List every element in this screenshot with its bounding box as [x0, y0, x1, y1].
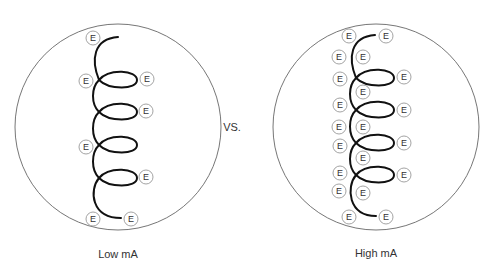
electron-marker: E — [332, 184, 346, 198]
svg-text:E: E — [346, 212, 352, 222]
electron-marker: E — [332, 50, 346, 64]
electron-marker: E — [140, 72, 154, 86]
electron-marker: E — [356, 151, 370, 165]
svg-text:E: E — [90, 33, 96, 43]
svg-text:E: E — [336, 122, 342, 132]
svg-text:E: E — [383, 31, 389, 41]
high-ma-filament-panel: EEEEEEEEEEEEEEEEEEEE — [273, 24, 479, 230]
svg-text:E: E — [337, 168, 343, 178]
electron-marker: E — [139, 104, 153, 118]
svg-text:E: E — [360, 122, 366, 132]
svg-text:E: E — [336, 186, 342, 196]
electron-marker: E — [333, 72, 347, 86]
electron-marker: E — [79, 140, 93, 154]
electron-marker: E — [333, 166, 347, 180]
electron-marker: E — [79, 74, 93, 88]
electron-marker: E — [356, 85, 370, 99]
electron-marker: E — [397, 103, 411, 117]
vs-label: VS. — [223, 121, 241, 133]
svg-text:E: E — [337, 141, 343, 151]
electron-marker: E — [333, 98, 347, 112]
electron-marker: E — [332, 120, 346, 134]
svg-text:E: E — [401, 105, 407, 115]
svg-text:E: E — [360, 87, 366, 97]
low-ma-filament-panel: EEEEEEEE — [15, 24, 221, 230]
svg-text:E: E — [128, 214, 134, 224]
focal-boundary-circle — [15, 24, 221, 230]
svg-text:E: E — [83, 142, 89, 152]
svg-text:E: E — [401, 170, 407, 180]
low-ma-label: Low mA — [98, 248, 138, 260]
electron-marker: E — [342, 210, 356, 224]
electron-marker: E — [356, 186, 370, 200]
electron-marker: E — [139, 170, 153, 184]
electron-marker: E — [86, 212, 100, 226]
electron-marker: E — [356, 50, 370, 64]
svg-text:E: E — [90, 214, 96, 224]
filament-coil — [93, 37, 137, 218]
svg-text:E: E — [337, 74, 343, 84]
electron-marker: E — [342, 29, 356, 43]
electron-marker: E — [124, 212, 138, 226]
svg-text:E: E — [144, 74, 150, 84]
electron-marker: E — [333, 139, 347, 153]
svg-text:E: E — [337, 100, 343, 110]
svg-text:E: E — [383, 212, 389, 222]
electron-marker: E — [356, 120, 370, 134]
svg-text:E: E — [336, 52, 342, 62]
svg-text:E: E — [143, 106, 149, 116]
electron-marker: E — [379, 210, 393, 224]
svg-text:E: E — [83, 76, 89, 86]
high-ma-label: High mA — [355, 247, 397, 259]
svg-text:E: E — [360, 153, 366, 163]
focal-boundary-circle — [273, 24, 479, 230]
svg-text:E: E — [401, 138, 407, 148]
svg-text:E: E — [143, 172, 149, 182]
electron-marker: E — [397, 136, 411, 150]
electron-marker: E — [86, 31, 100, 45]
electron-marker: E — [397, 70, 411, 84]
electron-marker: E — [397, 168, 411, 182]
electron-marker: E — [379, 29, 393, 43]
svg-text:E: E — [346, 31, 352, 41]
filament-comparison-diagram: EEEEEEEE EEEEEEEEEEEEEEEEEEEE — [0, 0, 493, 273]
svg-text:E: E — [360, 188, 366, 198]
svg-text:E: E — [360, 52, 366, 62]
svg-text:E: E — [401, 72, 407, 82]
